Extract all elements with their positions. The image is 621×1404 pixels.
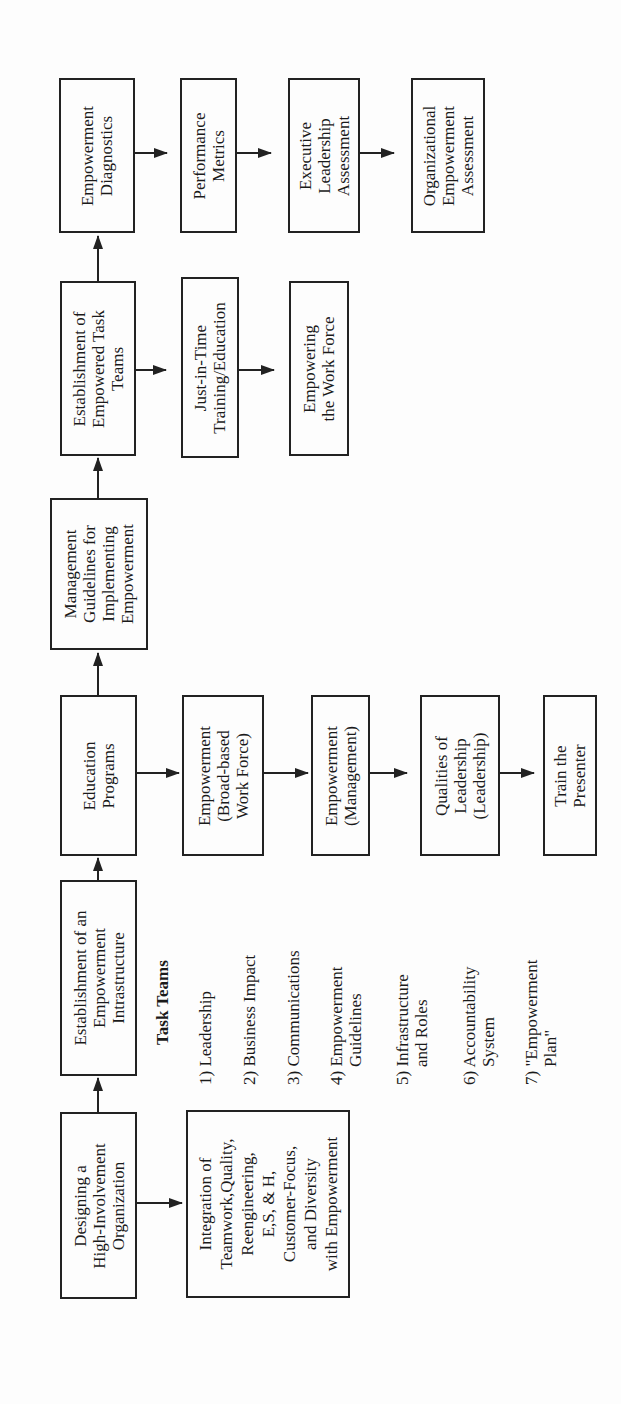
task-team-item: 6) Accountability System (460, 966, 498, 1085)
box-label: Management Guidelines for Implementing E… (61, 524, 137, 624)
box-education-programs: Education Programs (60, 695, 137, 856)
box-qualities-of-leadership: Qualities of Leadership (Leadership) (420, 695, 500, 856)
box-designing-high-involvement: Designing a High-Involvement Organizatio… (60, 1112, 137, 1299)
box-label: Just-in-Time Training/Education (191, 302, 229, 434)
box-empowerment-broad-based: Empowerment (Broad-based Work Force) (182, 695, 264, 856)
box-organizational-empowerment-assessment: Organizational Empowerment Assessment (411, 78, 485, 233)
task-team-item: 1) Leadership (196, 991, 215, 1085)
task-teams-title: Task Teams (153, 960, 172, 1045)
box-establishment-infrastructure: Establishment of an Empowerment Intrastr… (60, 880, 137, 1076)
box-label: Empowerment (Management) (322, 725, 360, 825)
box-just-in-time-training: Just-in-Time Training/Education (181, 277, 239, 458)
task-team-item: 7) "Empowerment Plan" (522, 960, 560, 1085)
box-empowering-work-force: Empowering the Work Force (289, 281, 349, 456)
task-team-item: 4) Empowerment Guidelines (327, 967, 365, 1086)
box-train-the-presenter: Train the Presenter (543, 695, 597, 856)
box-label: Executive Leadership Assessment (296, 115, 353, 195)
box-label: Establishment of Empowered Task Teams (70, 310, 127, 428)
box-empowerment-diagnostics: Empowerment Diagnostics (59, 78, 135, 233)
box-label: Empowering the Work Force (300, 316, 338, 421)
box-label: Empowerment (Broad-based Work Force) (195, 725, 252, 825)
task-team-item: 2) Business Impact (240, 955, 259, 1085)
box-label: Education Programs (80, 741, 118, 810)
box-label: Train the Presenter (551, 744, 589, 807)
box-label: Organizational Empowerment Assessment (420, 105, 477, 206)
box-label: Performance Metrics (190, 112, 228, 199)
box-label: Establishment of an Empowerment Intrastr… (70, 910, 127, 1045)
task-team-item: 3) Communications (284, 950, 303, 1085)
box-label: Empowerment Diagnostics (78, 105, 116, 205)
box-executive-leadership-assessment: Executive Leadership Assessment (288, 78, 360, 233)
box-management-guidelines: Management Guidelines for Implementing E… (50, 498, 148, 650)
task-team-item: 5) Infrastructure and Roles (393, 974, 431, 1085)
box-establishment-empowered-task-teams: Establishment of Empowered Task Teams (60, 281, 136, 456)
box-performance-metrics: Performance Metrics (180, 78, 237, 233)
box-label: Integration of Teamwork,Quality, Reengin… (195, 1137, 342, 1272)
box-label: Qualities of Leadership (Leadership) (432, 732, 489, 819)
box-empowerment-management: Empowerment (Management) (311, 695, 370, 856)
box-label: Designing a High-Involvement Organizatio… (70, 1143, 127, 1269)
box-integration: Integration of Teamwork,Quality, Reengin… (186, 1110, 350, 1298)
